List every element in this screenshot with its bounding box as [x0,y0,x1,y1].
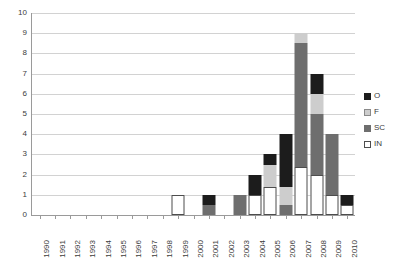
bar-column[interactable] [63,13,78,215]
bar-segment-o[interactable] [202,195,215,205]
x-axis-tick-label: 2001 [212,240,220,258]
bar-column[interactable] [217,13,232,215]
legend-swatch-icon [364,93,371,100]
x-axis-tick-label: 1998 [166,240,174,258]
legend-swatch-icon [364,141,371,148]
legend-item-sc[interactable]: SC [364,120,394,136]
x-axis-tick-label: 2008 [320,240,328,258]
bar-stack[interactable] [172,195,185,215]
bar-segment-o[interactable] [341,195,354,205]
x-axis-tick-label: 2002 [228,240,236,258]
legend-label: O [374,92,380,100]
bar-column[interactable] [32,13,47,215]
bar-column[interactable] [170,13,185,215]
bar-column[interactable] [109,13,124,215]
legend-label: IN [374,140,382,148]
bar-column[interactable] [232,13,247,215]
bar-stack[interactable] [202,195,215,215]
bar-segment-in[interactable] [249,195,262,215]
y-axis-tick-label: 8 [0,49,27,57]
bar-column[interactable] [247,13,262,215]
bar-segment-f[interactable] [295,33,308,43]
bar-stack[interactable] [310,74,323,215]
x-axis-tick-label: 2004 [259,240,267,258]
bar-column[interactable] [324,13,339,215]
bar-segment-sc[interactable] [279,205,292,215]
bar-stack[interactable] [325,134,338,215]
bar-column[interactable] [124,13,139,215]
bar-segment-sc[interactable] [233,195,246,215]
bar-column[interactable] [201,13,216,215]
x-axis-tick-label: 2005 [274,240,282,258]
y-axis-labels: 012345678910 [0,13,27,215]
x-axis-tick-label: 2000 [197,240,205,258]
bar-column[interactable] [309,13,324,215]
bar-segment-in[interactable] [172,195,185,215]
bar-column[interactable] [155,13,170,215]
y-axis-tick-label: 1 [0,191,27,199]
bar-column[interactable] [186,13,201,215]
bar-column[interactable] [278,13,293,215]
bar-stack[interactable] [233,195,246,215]
bar-stack[interactable] [279,134,292,215]
x-axis-tick-label: 1990 [43,240,51,258]
x-axis-tick-label: 1999 [182,240,190,258]
bar-segment-o[interactable] [249,175,262,195]
bar-segment-sc[interactable] [325,134,338,195]
bar-stack[interactable] [264,154,277,215]
bar-segment-in[interactable] [264,187,277,215]
legend-swatch-icon [364,109,371,116]
bar-column[interactable] [78,13,93,215]
legend-item-in[interactable]: IN [364,136,394,152]
bar-segment-in[interactable] [325,195,338,215]
bar-segment-in[interactable] [310,175,323,215]
y-axis-tick-label: 6 [0,90,27,98]
bar-segment-in[interactable] [341,205,354,215]
y-axis-tick-label: 2 [0,171,27,179]
bar-segment-in[interactable] [295,167,308,215]
legend-item-o[interactable]: O [364,88,394,104]
bar-column[interactable] [94,13,109,215]
bar-column[interactable] [140,13,155,215]
bar-segment-sc[interactable] [310,114,323,175]
x-axis-labels: 1990199119921993199419951996199719981999… [32,219,355,242]
bar-segment-sc[interactable] [202,205,215,215]
x-axis-tick-label: 2009 [335,240,343,258]
legend-swatch-icon [364,125,371,132]
x-axis-tick-label: 1994 [105,240,113,258]
bar-column[interactable] [47,13,62,215]
bar-segment-sc[interactable] [295,43,308,166]
x-axis-tick-label: 1997 [151,240,159,258]
y-axis-tick-label: 5 [0,110,27,118]
bar-stack[interactable] [249,175,262,215]
bar-segment-f[interactable] [310,94,323,114]
y-axis-tick-label: 9 [0,29,27,37]
bar-stack[interactable] [295,33,308,215]
bar-column[interactable] [293,13,308,215]
bar-column[interactable] [340,13,355,215]
y-axis-tick-label: 0 [0,211,27,219]
bar-segment-o[interactable] [279,134,292,187]
legend-label: F [374,108,379,116]
bar-segment-o[interactable] [264,154,277,164]
x-axis-tick-label: 1991 [59,240,67,258]
y-axis-line [31,13,32,216]
x-axis-tick-label: 1993 [89,240,97,258]
bar-segment-f[interactable] [279,187,292,205]
y-axis-tick-label: 10 [0,9,27,17]
bar-segment-o[interactable] [310,74,323,94]
bar-column[interactable] [263,13,278,215]
bar-stack[interactable] [341,195,354,215]
legend-label: SC [374,124,385,132]
x-axis-tick-label: 1992 [74,240,82,258]
bars-layer [32,13,355,215]
plot-area [32,13,355,215]
bar-segment-f[interactable] [264,165,277,187]
y-axis-tick-label: 3 [0,150,27,158]
legend-item-f[interactable]: F [364,104,394,120]
x-axis-tick-label: 1996 [135,240,143,258]
x-axis-tick-label: 2010 [351,240,359,258]
y-axis-tick-label: 4 [0,130,27,138]
x-axis-tick-label: 2007 [305,240,313,258]
